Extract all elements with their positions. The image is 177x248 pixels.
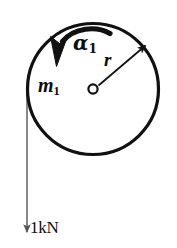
force-label: 1kN [30,219,59,236]
mass-subscript: 1 [54,84,60,98]
mass-symbol: m [38,74,54,96]
radius-label: r [104,50,111,69]
mass-label: m1 [38,75,60,98]
axle-hub-icon [88,84,97,93]
alpha-subscript: 1 [88,41,97,56]
angular-acceleration-label: α1 [73,33,97,56]
alpha-symbol: α [73,31,88,55]
physics-diagram-figure: α1 r m1 1kN [0,0,177,248]
